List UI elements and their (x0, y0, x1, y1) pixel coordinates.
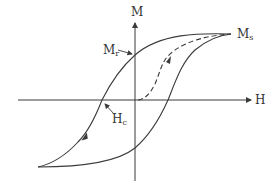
mr-label: Mr (103, 44, 119, 58)
diagram-canvas (0, 0, 277, 189)
hysteresis-diagram: M H Ms Mr Hc (0, 0, 277, 189)
direction-arrow-icon (166, 56, 171, 64)
m-axis-label: M (131, 6, 143, 18)
mr-pointer (118, 50, 132, 54)
h-axis-label: H (255, 94, 265, 106)
ms-label: Ms (237, 28, 253, 42)
hc-label: Hc (112, 113, 127, 127)
